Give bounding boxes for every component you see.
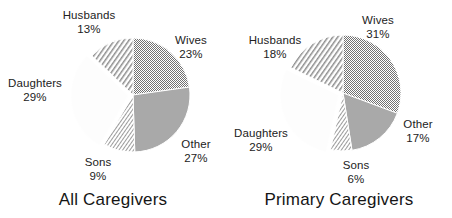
- pie-primary-caregivers: [226, 0, 452, 190]
- chart-panel-all-caregivers: Husbands 13% Wives 23% Other 27% Sons 9%…: [0, 0, 226, 218]
- panel-title-all-caregivers: All Caregivers: [0, 190, 226, 210]
- pie-chart-figure: Husbands 13% Wives 23% Other 27% Sons 9%…: [0, 0, 452, 218]
- panel-title-primary-caregivers: Primary Caregivers: [226, 190, 452, 210]
- pie-all-caregivers: [0, 0, 226, 190]
- chart-panel-primary-caregivers: Husbands 18% Wives 31% Other 17% Sons 6%…: [226, 0, 452, 218]
- pie-slice-other: [133, 87, 190, 152]
- pie-slice-wives: [133, 38, 189, 95]
